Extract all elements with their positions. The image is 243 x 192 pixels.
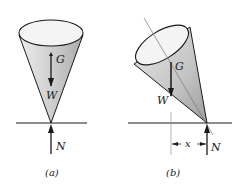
label-w-a: W (46, 89, 59, 102)
dimension-arrow-left (172, 142, 178, 146)
label-n-a: N (55, 140, 66, 153)
cone-diagram: G W N (a) G W x N (b) (0, 0, 243, 192)
caption-b: (b) (166, 167, 180, 178)
cone-top-a (19, 20, 83, 46)
dimension-arrow-right (200, 142, 206, 146)
label-g-b: G (175, 60, 184, 73)
figure-a: G W N (a) (16, 20, 87, 178)
normal-arrowhead-a (48, 124, 54, 133)
figure-b: G W x N (b) (128, 17, 232, 178)
caption-a: (a) (45, 167, 59, 178)
label-g-a: G (56, 53, 65, 66)
label-x-b: x (185, 138, 191, 149)
label-n-b: N (210, 141, 221, 154)
label-w-b: W (157, 94, 170, 107)
